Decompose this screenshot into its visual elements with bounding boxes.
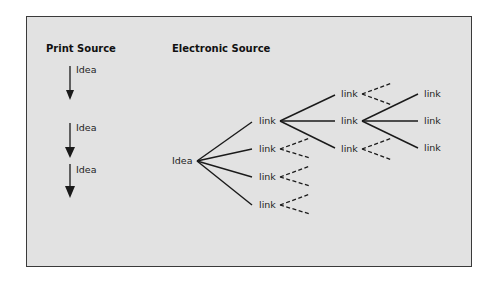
tree-link-l1-4: link (259, 199, 276, 210)
print-idea-3: Idea (76, 164, 97, 175)
diagram-canvas: Print Source Electronic Source Idea Idea… (0, 0, 501, 286)
arrowhead-icon (65, 147, 75, 158)
tree-link-l1-1: link (259, 115, 276, 126)
tree-link-l2-1: link (341, 88, 358, 99)
arrowhead-icon (66, 90, 74, 100)
tree-link-l1-2: link (259, 143, 276, 154)
print-source-flow: Idea Idea Idea (65, 64, 97, 198)
print-idea-2: Idea (76, 122, 97, 133)
tree-link-l3-2: link (424, 115, 441, 126)
tree-root-idea: Idea (172, 155, 193, 166)
electronic-source-heading: Electronic Source (172, 43, 271, 54)
tree-link-l2-2: link (341, 115, 358, 126)
electronic-source-tree: Idea link link link link link link link (172, 83, 441, 214)
tree-link-l2-3: link (341, 143, 358, 154)
print-idea-1: Idea (76, 64, 97, 75)
tree-link-l3-3: link (424, 142, 441, 153)
arrowhead-icon (65, 186, 75, 198)
print-source-heading: Print Source (46, 43, 116, 54)
tree-link-l1-3: link (259, 171, 276, 182)
tree-link-l3-1: link (424, 88, 441, 99)
